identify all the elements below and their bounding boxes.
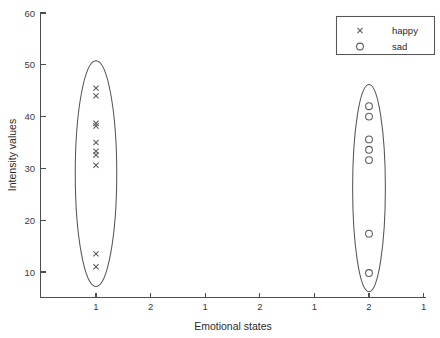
x-tick-label: 2 (148, 301, 153, 312)
data-point-sad (366, 113, 373, 120)
data-point-happy (93, 264, 98, 269)
y-axis-title: Intensity values (6, 119, 18, 191)
cluster-ellipses (75, 61, 385, 292)
x-axis-ticks: 1212121 (93, 293, 426, 313)
data-point-happy (93, 93, 98, 98)
data-point-sad (366, 230, 373, 237)
y-axis-ticks: 605040302010 (24, 8, 46, 278)
x-tick-label: 1 (203, 301, 208, 312)
data-point-happy (93, 123, 98, 128)
x-tick-label: 1 (421, 301, 426, 312)
data-point-sad (366, 146, 373, 153)
legend-box (337, 17, 435, 55)
data-point-happy (93, 152, 98, 157)
y-tick-label: 50 (24, 59, 35, 70)
scatter-plot-canvas: 605040302010 1212121 Emotional states In… (0, 0, 440, 338)
data-point-happy (93, 140, 98, 145)
data-point-happy (93, 86, 98, 91)
sad-cluster-ellipse (353, 84, 386, 291)
data-point-sad (366, 157, 373, 164)
legend: happysad (337, 17, 435, 55)
x-tick-label: 1 (312, 301, 317, 312)
x-axis-title: Emotional states (194, 320, 272, 332)
data-point-markers (93, 86, 372, 277)
legend-label-sad: sad (392, 41, 407, 52)
data-point-sad (366, 270, 373, 277)
x-tick-label: 1 (93, 301, 98, 312)
y-tick-label: 30 (24, 163, 35, 174)
legend-label-happy: happy (392, 25, 418, 36)
x-tick-label: 2 (257, 301, 262, 312)
happy-cluster-ellipse (75, 61, 116, 287)
y-tick-label: 60 (24, 8, 35, 19)
y-tick-label: 40 (24, 111, 35, 122)
chart-figure: 605040302010 1212121 Emotional states In… (0, 0, 440, 338)
y-tick-label: 10 (24, 267, 35, 278)
x-tick-label: 2 (366, 301, 371, 312)
data-point-happy (93, 251, 98, 256)
data-point-happy (93, 163, 98, 168)
data-point-sad (366, 103, 373, 110)
data-point-happy (93, 121, 98, 126)
y-tick-label: 20 (24, 215, 35, 226)
data-point-sad (366, 136, 373, 143)
